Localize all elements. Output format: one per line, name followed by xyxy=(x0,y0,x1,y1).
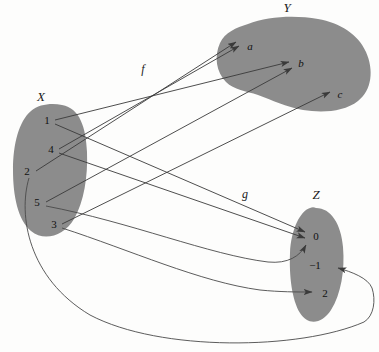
arrow-1-to-0 xyxy=(55,124,305,232)
element-z-0: 0 xyxy=(313,230,319,242)
element-x-3: 3 xyxy=(51,218,57,230)
element-y-b: b xyxy=(298,57,304,69)
arrow-5-to-0 xyxy=(46,206,306,262)
function-mapping-diagram: X Y Z 1 4 2 5 3 a b c 0 −1 2 f g xyxy=(0,0,379,352)
element-x-5: 5 xyxy=(34,196,40,208)
element-y-a: a xyxy=(247,40,253,52)
arrow-4-to-0 xyxy=(59,153,305,238)
element-z-2: 2 xyxy=(322,287,328,299)
set-y-blob xyxy=(217,17,371,112)
element-x-1: 1 xyxy=(44,114,50,126)
set-label-x: X xyxy=(36,89,46,104)
function-label-f: f xyxy=(141,62,146,76)
element-z-minus1: −1 xyxy=(309,259,321,271)
element-x-2: 2 xyxy=(24,165,30,177)
set-label-z: Z xyxy=(312,187,320,202)
arrow-3-to-2 xyxy=(62,228,312,292)
arrow-4-to-a xyxy=(59,46,239,149)
element-x-4: 4 xyxy=(48,143,54,155)
diagram-canvas: X Y Z 1 4 2 5 3 a b c 0 −1 2 f g xyxy=(0,0,379,352)
set-blobs xyxy=(13,17,371,322)
set-label-y: Y xyxy=(283,0,292,15)
element-y-c: c xyxy=(338,88,343,100)
function-label-g: g xyxy=(242,187,248,201)
arrow-3-to-c xyxy=(62,92,330,224)
